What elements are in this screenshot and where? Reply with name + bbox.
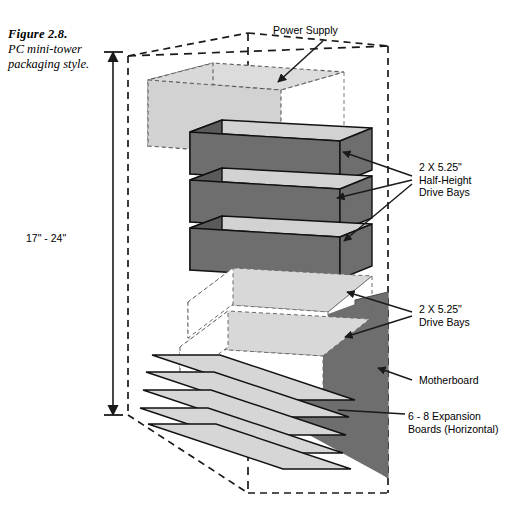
mini-tower-diagram	[0, 0, 519, 516]
drive-bay-slab-3	[190, 216, 372, 279]
figure-canvas: Figure 2.8. PC mini-tower packaging styl…	[0, 0, 519, 516]
height-dimension-arrow	[104, 52, 123, 415]
